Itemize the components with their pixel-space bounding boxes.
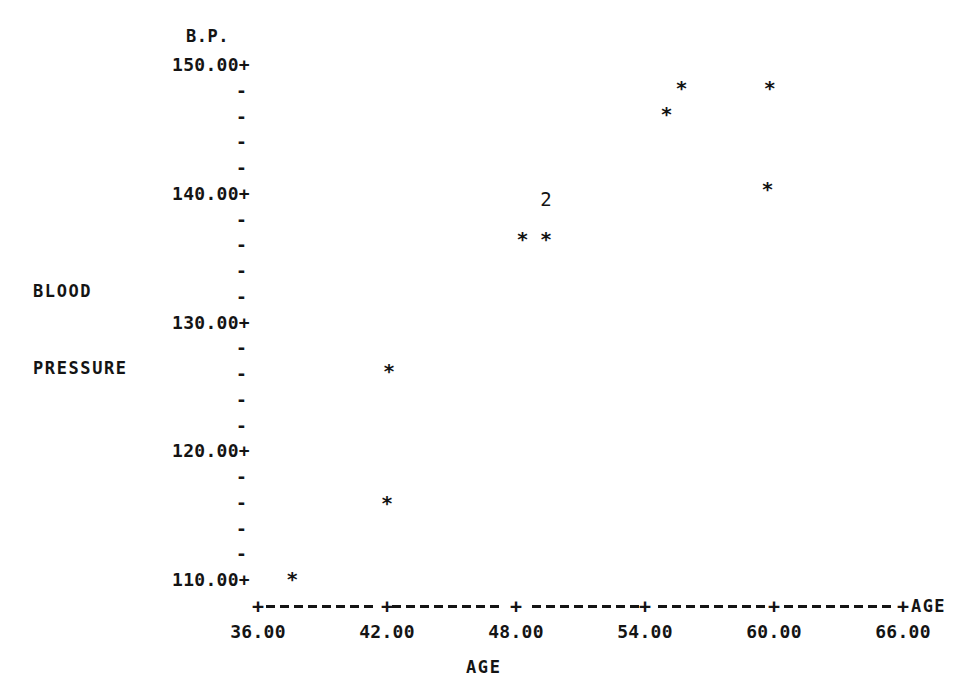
data-point-marker: * — [540, 229, 552, 249]
data-point-marker: * — [762, 179, 774, 199]
data-point-marker: * — [286, 569, 298, 589]
data-point-marker: * — [676, 78, 688, 98]
data-point-layer: *********2 — [0, 0, 975, 698]
data-point-marker: * — [660, 104, 672, 124]
overlap-count-label: 2 — [540, 189, 551, 208]
scatterplot-canvas: B.P. BLOOD PRESSURE 150.00+----140.00+--… — [0, 0, 975, 698]
data-point-marker: * — [516, 229, 528, 249]
data-point-marker: * — [764, 78, 776, 98]
data-point-marker: * — [381, 493, 393, 513]
data-point-marker: * — [383, 361, 395, 381]
